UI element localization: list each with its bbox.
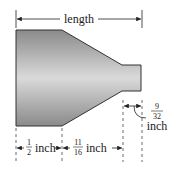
length-label: length <box>64 12 94 26</box>
svg-text:inch: inch <box>147 119 168 133</box>
svg-text:inch: inch <box>86 141 107 155</box>
shaft-diagram: length 1 2 inch 11 16 inch 9 32 inch <box>0 0 176 173</box>
shaft-body <box>16 30 141 126</box>
dim-right-label: 9 32 inch <box>147 102 168 133</box>
svg-text:inch: inch <box>35 141 56 155</box>
dim-middle-label: 11 16 inch <box>73 138 107 157</box>
svg-text:1: 1 <box>27 138 31 147</box>
svg-text:9: 9 <box>155 102 159 111</box>
svg-text:11: 11 <box>74 138 82 147</box>
svg-text:16: 16 <box>74 148 82 157</box>
dim-left-label: 1 2 inch <box>26 138 56 157</box>
svg-text:2: 2 <box>27 148 31 157</box>
